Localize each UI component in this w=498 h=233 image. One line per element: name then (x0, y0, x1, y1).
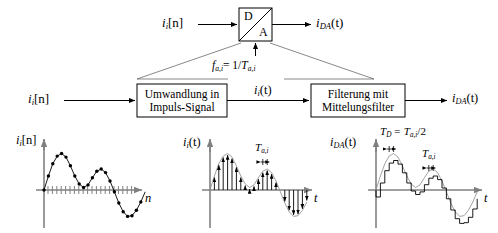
intermediate-signal-label: ii(t) (254, 84, 272, 99)
clock-frequency-label: fa,i= 1/Ta,i (212, 60, 256, 73)
top-input-label: ii[n] (162, 16, 183, 31)
figure-root: ii[n] D A iDA(t) fa,i= 1/Ta,i ii[n] Umwa… (0, 0, 498, 233)
t-d-marker (387, 146, 396, 152)
plot3-td-label: TD = Ta,i/2 (380, 126, 426, 139)
converter-d-letter: D (244, 10, 253, 22)
block2-text: Filterung mit Mittelungsfilter (311, 88, 405, 114)
block2-line2: Mittelungsfilter (311, 101, 405, 114)
block1-line1: Umwandlung in (137, 88, 227, 101)
converter-a-letter: A (259, 26, 268, 38)
block1-text: Umwandlung in Impuls-Signal (137, 88, 227, 114)
plot-discrete-input (36, 139, 145, 228)
expanded-input-label: ii[n] (28, 92, 49, 107)
diagram-canvas (0, 0, 498, 233)
plot2-tai-label: Ta,i (255, 142, 269, 155)
plot2-x-label: t (314, 192, 317, 205)
block1-line2: Impuls-Signal (137, 101, 227, 114)
top-output-label: iDA(t) (316, 16, 343, 31)
plot3-x-label: t (484, 192, 487, 205)
expanded-output-label: iDA(t) (452, 92, 478, 107)
plot1-y-label: ii[n] (16, 134, 36, 149)
block2-line1: Filterung mit (311, 88, 405, 101)
t-ai-marker-plot2 (261, 159, 270, 165)
plot3-y-label: iDA(t) (330, 136, 356, 151)
plot2-y-label: ii(t) (183, 136, 201, 151)
plot1-x-label: n (145, 192, 151, 205)
plot3-tai-label: Ta,i (422, 148, 436, 161)
